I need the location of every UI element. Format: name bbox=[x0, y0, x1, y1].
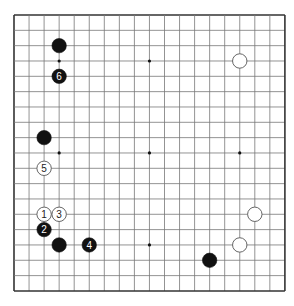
stone-label: 4 bbox=[86, 240, 92, 251]
black-stone-icon bbox=[37, 130, 51, 144]
stone-move-3: 3 bbox=[52, 207, 66, 221]
black-stone bbox=[52, 238, 66, 252]
black-stone-icon bbox=[52, 238, 66, 252]
star-point bbox=[238, 151, 241, 154]
go-board[interactable]: 651324 bbox=[0, 0, 294, 306]
black-stone bbox=[37, 130, 51, 144]
stone-label: 1 bbox=[41, 209, 47, 220]
star-point bbox=[58, 151, 61, 154]
stone-move-6: 6 bbox=[52, 69, 66, 83]
black-stone bbox=[202, 253, 216, 267]
white-stone-icon bbox=[233, 54, 247, 68]
stone-move-2: 2 bbox=[37, 222, 51, 236]
stone-move-1: 1 bbox=[37, 207, 51, 221]
star-point bbox=[58, 59, 61, 62]
stone-label: 6 bbox=[56, 71, 62, 82]
stone-label: 2 bbox=[41, 224, 47, 235]
white-stone-icon bbox=[233, 238, 247, 252]
stone-move-4: 4 bbox=[82, 238, 96, 252]
stone-label: 5 bbox=[41, 163, 47, 174]
star-point bbox=[148, 151, 151, 154]
stone-move-5: 5 bbox=[37, 161, 51, 175]
black-stone-icon bbox=[202, 253, 216, 267]
stone-label: 3 bbox=[56, 209, 62, 220]
star-point bbox=[148, 243, 151, 246]
white-stone-icon bbox=[248, 207, 262, 221]
black-stone bbox=[52, 38, 66, 52]
white-stone bbox=[233, 54, 247, 68]
white-stone bbox=[233, 238, 247, 252]
white-stone bbox=[248, 207, 262, 221]
black-stone-icon bbox=[52, 38, 66, 52]
star-point bbox=[148, 59, 151, 62]
